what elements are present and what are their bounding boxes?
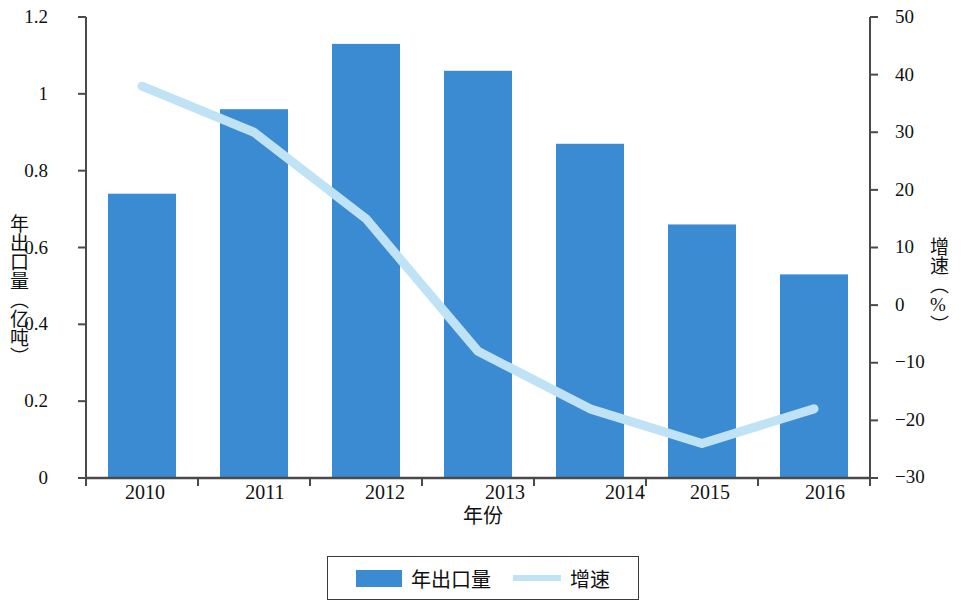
legend-line-swatch-icon xyxy=(513,575,561,581)
bar-2013 xyxy=(444,71,512,478)
bar-2011 xyxy=(220,109,288,478)
plot-area xyxy=(0,0,966,603)
legend-item-line: 增速 xyxy=(513,564,610,593)
legend-label-bar: 年出口量 xyxy=(411,564,491,593)
legend-label-line: 增速 xyxy=(570,564,610,593)
bar-2012 xyxy=(332,44,400,478)
bar-2014 xyxy=(556,144,624,478)
legend-bar-swatch-icon xyxy=(356,570,402,587)
chart-legend: 年出口量 增速 xyxy=(327,556,639,600)
bar-2016 xyxy=(780,274,848,478)
bar-2010 xyxy=(108,194,176,478)
legend-item-bar: 年出口量 xyxy=(356,564,491,593)
bar-series-年出口量 xyxy=(108,44,848,478)
chart-container: 年出口量（亿吨） 增速（%） 年份 1.2 1 0.8 0.6 0.4 0.2 … xyxy=(0,0,966,603)
